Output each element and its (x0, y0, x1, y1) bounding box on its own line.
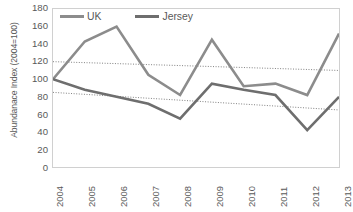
y-axis-tick-labels: 020406080100120140160180 (24, 0, 48, 212)
y-tick-180: 180 (24, 3, 48, 13)
y-tick-60: 60 (24, 110, 48, 120)
legend-label: UK (87, 11, 101, 22)
x-tick-2007: 2007 (151, 167, 160, 207)
legend-label: Jersey (162, 11, 193, 22)
x-tick-2012: 2012 (311, 167, 320, 207)
legend-swatch-icon (60, 15, 84, 18)
x-tick-2006: 2006 (119, 167, 128, 207)
legend-swatch-icon (135, 15, 159, 18)
y-tick-0: 0 (24, 163, 48, 173)
y-tick-40: 40 (24, 128, 48, 138)
series-line-jersey (53, 79, 339, 130)
plot-area (52, 8, 340, 168)
chart-legend: UKJersey (60, 11, 193, 22)
x-tick-2010: 2010 (247, 167, 256, 207)
legend-entry-uk: UK (60, 11, 101, 22)
plot-svg (53, 9, 339, 167)
y-tick-20: 20 (24, 145, 48, 155)
x-tick-2013: 2013 (343, 167, 352, 207)
y-tick-160: 160 (24, 21, 48, 31)
y-tick-120: 120 (24, 57, 48, 67)
x-tick-2011: 2011 (279, 167, 288, 207)
y-tick-80: 80 (24, 92, 48, 102)
y-tick-140: 140 (24, 39, 48, 49)
x-tick-2004: 2004 (55, 167, 64, 207)
x-tick-2009: 2009 (215, 167, 224, 207)
x-tick-2008: 2008 (183, 167, 192, 207)
y-tick-100: 100 (24, 74, 48, 84)
y-axis-title: Abundanace Index (2004=100) (9, 5, 19, 155)
legend-entry-jersey: Jersey (135, 11, 193, 22)
series-line-uk (53, 27, 339, 95)
x-tick-2005: 2005 (87, 167, 96, 207)
x-axis-tick-labels: 2004200520062007200820092010201120122013 (52, 169, 340, 212)
